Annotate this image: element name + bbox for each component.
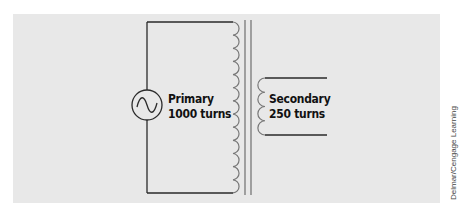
image-credit: Delmar/Cengage Learning [449, 106, 458, 200]
primary-turns: 1000 turns [168, 106, 231, 121]
secondary-turns: 250 turns [269, 106, 330, 121]
secondary-name: Secondary [269, 91, 330, 106]
secondary-label: Secondary 250 turns [269, 91, 330, 121]
primary-label: Primary 1000 turns [168, 91, 231, 121]
secondary-coil [258, 78, 265, 135]
transformer-diagram [0, 0, 469, 214]
primary-name: Primary [168, 91, 231, 106]
transformer-core [245, 20, 251, 195]
primary-coil [233, 22, 239, 193]
ac-source-icon [132, 90, 162, 120]
